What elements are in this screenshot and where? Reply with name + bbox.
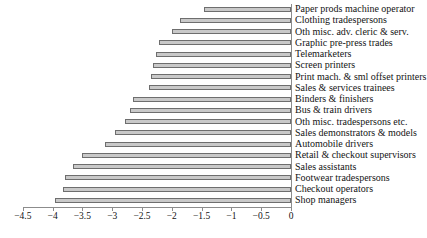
bar-row: Checkout operators [0,184,427,195]
bar [153,63,291,68]
bar-row: Telemarketers [0,49,427,60]
bar-row: Graphic pre-press trades [0,38,427,49]
category-label: Print mach. & sml offset printers [295,71,426,83]
category-label: Telemarketers [295,48,352,60]
category-label: Graphic pre-press trades [295,37,393,49]
category-label: Retail & checkout supervisors [295,149,416,161]
bar [151,74,291,79]
bar [172,29,291,34]
bar [125,119,291,124]
category-label: Screen printers [295,59,355,71]
bar [115,130,291,135]
bar [73,164,291,169]
category-label: Shop managers [295,194,356,206]
category-label: Binders & finishers [295,93,373,105]
bar [204,7,291,12]
category-label: Paper prods machine operator [295,3,415,15]
bar-row: Retail & checkout supervisors [0,150,427,161]
bar [55,198,291,203]
category-label: Oth misc. tradespersons etc. [295,116,407,128]
bar-chart: −4.5−4−3.5−3−2.5−2−1.5−1−0.50 Paper prod… [0,0,427,238]
category-label: Oth misc. adv. cleric & serv. [295,26,409,38]
x-axis-line [23,207,292,208]
category-label: Footwear tradespersons [295,172,390,184]
bar [130,108,291,113]
category-label: Sales assistants [295,161,356,173]
category-label: Bus & train drivers [295,104,372,116]
category-label: Checkout operators [295,183,373,195]
category-label: Clothing tradespersons [295,14,387,26]
bar [149,85,291,90]
bar [105,142,291,147]
bar-row: Shop managers [0,195,427,206]
x-tick-label: 0 [271,211,311,222]
category-label: Automobile drivers [295,138,373,150]
bar [159,40,291,45]
bar [156,52,291,57]
bar [82,153,291,158]
category-label: Sales & services trainees [295,82,395,94]
bar [180,18,291,23]
bar [65,175,291,180]
bar [133,97,291,102]
category-label: Sales demonstrators & models [295,127,417,139]
plot-area: −4.5−4−3.5−3−2.5−2−1.5−1−0.50 Paper prod… [0,0,427,238]
bar [63,187,291,192]
